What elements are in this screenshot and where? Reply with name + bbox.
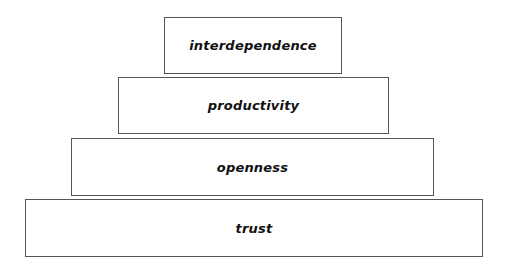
tier-label: interdependence (189, 38, 317, 53)
tier-label: openness (217, 160, 288, 175)
tier-productivity: productivity (118, 77, 389, 134)
tier-label: productivity (208, 98, 300, 113)
tier-openness: openness (71, 138, 434, 196)
tier-trust: trust (25, 199, 483, 257)
tier-label: trust (236, 221, 273, 236)
tier-interdependence: interdependence (164, 17, 342, 74)
